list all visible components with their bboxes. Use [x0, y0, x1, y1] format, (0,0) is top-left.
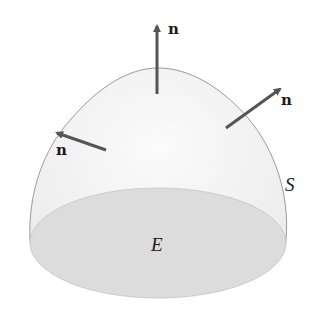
normal-label-top: n: [168, 22, 179, 37]
normal-label-right: n: [281, 93, 292, 108]
surface-diagram: [0, 0, 324, 314]
surface-label: S: [285, 175, 295, 194]
region-label: E: [151, 235, 163, 254]
normal-label-left: n: [56, 143, 67, 158]
